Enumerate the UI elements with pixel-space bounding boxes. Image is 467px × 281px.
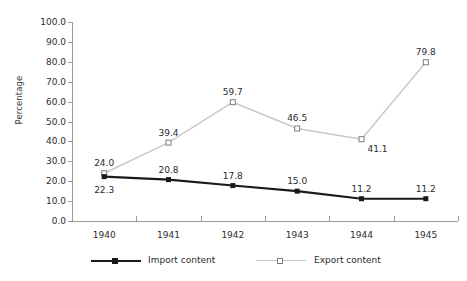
y-axis-tick-mark (68, 201, 72, 202)
x-axis-tick-mark (201, 216, 202, 221)
legend-label-import: Import content (148, 255, 215, 266)
y-axis-tick-label: 100.0 (28, 17, 66, 27)
data-point-marker (166, 177, 171, 182)
x-axis-tick-label: 1944 (335, 230, 389, 241)
data-point-label: 11.2 (406, 184, 446, 194)
data-point-label: 24.0 (84, 158, 124, 168)
y-axis-tick-mark (68, 161, 72, 162)
data-point-label: 39.4 (149, 128, 189, 138)
y-axis-tick-label: 0.0 (28, 216, 66, 226)
data-point-marker (166, 140, 171, 145)
data-point-label: 22.3 (84, 185, 124, 195)
y-axis-tick-label: 70.0 (28, 77, 66, 87)
y-axis-line (72, 22, 73, 221)
data-point-marker (359, 137, 364, 142)
x-axis-tick-label: 1943 (270, 230, 324, 241)
data-point-marker (423, 196, 428, 201)
y-axis-tick-mark (68, 62, 72, 63)
x-axis-tick-mark (458, 216, 459, 221)
y-axis-tick-label: 50.0 (28, 117, 66, 127)
y-axis-tick-mark (68, 221, 72, 222)
x-axis-tick-label: 1941 (142, 230, 196, 241)
y-axis-tick-label: 60.0 (28, 97, 66, 107)
data-point-label: 79.8 (406, 47, 446, 57)
data-point-label: 11.2 (342, 184, 382, 194)
data-point-marker (102, 171, 107, 176)
data-point-marker (230, 100, 235, 105)
x-axis-tick-label: 1945 (399, 230, 453, 241)
y-axis-tick-label: 90.0 (28, 37, 66, 47)
y-axis-tick-mark (68, 102, 72, 103)
data-point-marker (102, 174, 107, 179)
x-axis-tick-mark (394, 216, 395, 221)
data-point-label: 46.5 (277, 113, 317, 123)
y-axis-tick-mark (68, 42, 72, 43)
legend-marker-import (112, 258, 118, 264)
data-point-marker (423, 60, 428, 65)
data-point-label: 41.1 (368, 144, 388, 154)
data-point-marker (295, 126, 300, 131)
y-axis-tick-label: 10.0 (28, 196, 66, 206)
y-axis-tick-mark (68, 141, 72, 142)
y-axis-tick-label: 30.0 (28, 156, 66, 166)
data-point-marker (295, 189, 300, 194)
data-point-label: 15.0 (277, 176, 317, 186)
data-point-label: 20.8 (149, 165, 189, 175)
legend-label-export: Export content (314, 255, 381, 266)
data-point-marker (359, 196, 364, 201)
x-axis-tick-mark (265, 216, 266, 221)
x-axis-tick-mark (72, 216, 73, 221)
y-axis-tick-mark (68, 82, 72, 83)
series-line-export (104, 62, 426, 173)
y-axis-tick-label: 20.0 (28, 176, 66, 186)
data-point-marker (230, 183, 235, 188)
chart-container: Percentage 100.090.080.070.060.050.040.0… (0, 0, 467, 281)
y-axis-tick-mark (68, 122, 72, 123)
data-point-label: 59.7 (213, 87, 253, 97)
legend-marker-export (277, 258, 283, 264)
y-axis-tick-label: 80.0 (28, 57, 66, 67)
y-axis-tick-label: 40.0 (28, 136, 66, 146)
y-axis-tick-mark (68, 22, 72, 23)
x-axis-tick-mark (329, 216, 330, 221)
x-axis-tick-label: 1940 (77, 230, 131, 241)
x-axis-line (72, 221, 458, 222)
data-point-label: 17.8 (213, 171, 253, 181)
x-axis-tick-label: 1942 (206, 230, 260, 241)
y-axis-title: Percentage (14, 30, 28, 170)
y-axis-tick-mark (68, 181, 72, 182)
x-axis-tick-mark (136, 216, 137, 221)
